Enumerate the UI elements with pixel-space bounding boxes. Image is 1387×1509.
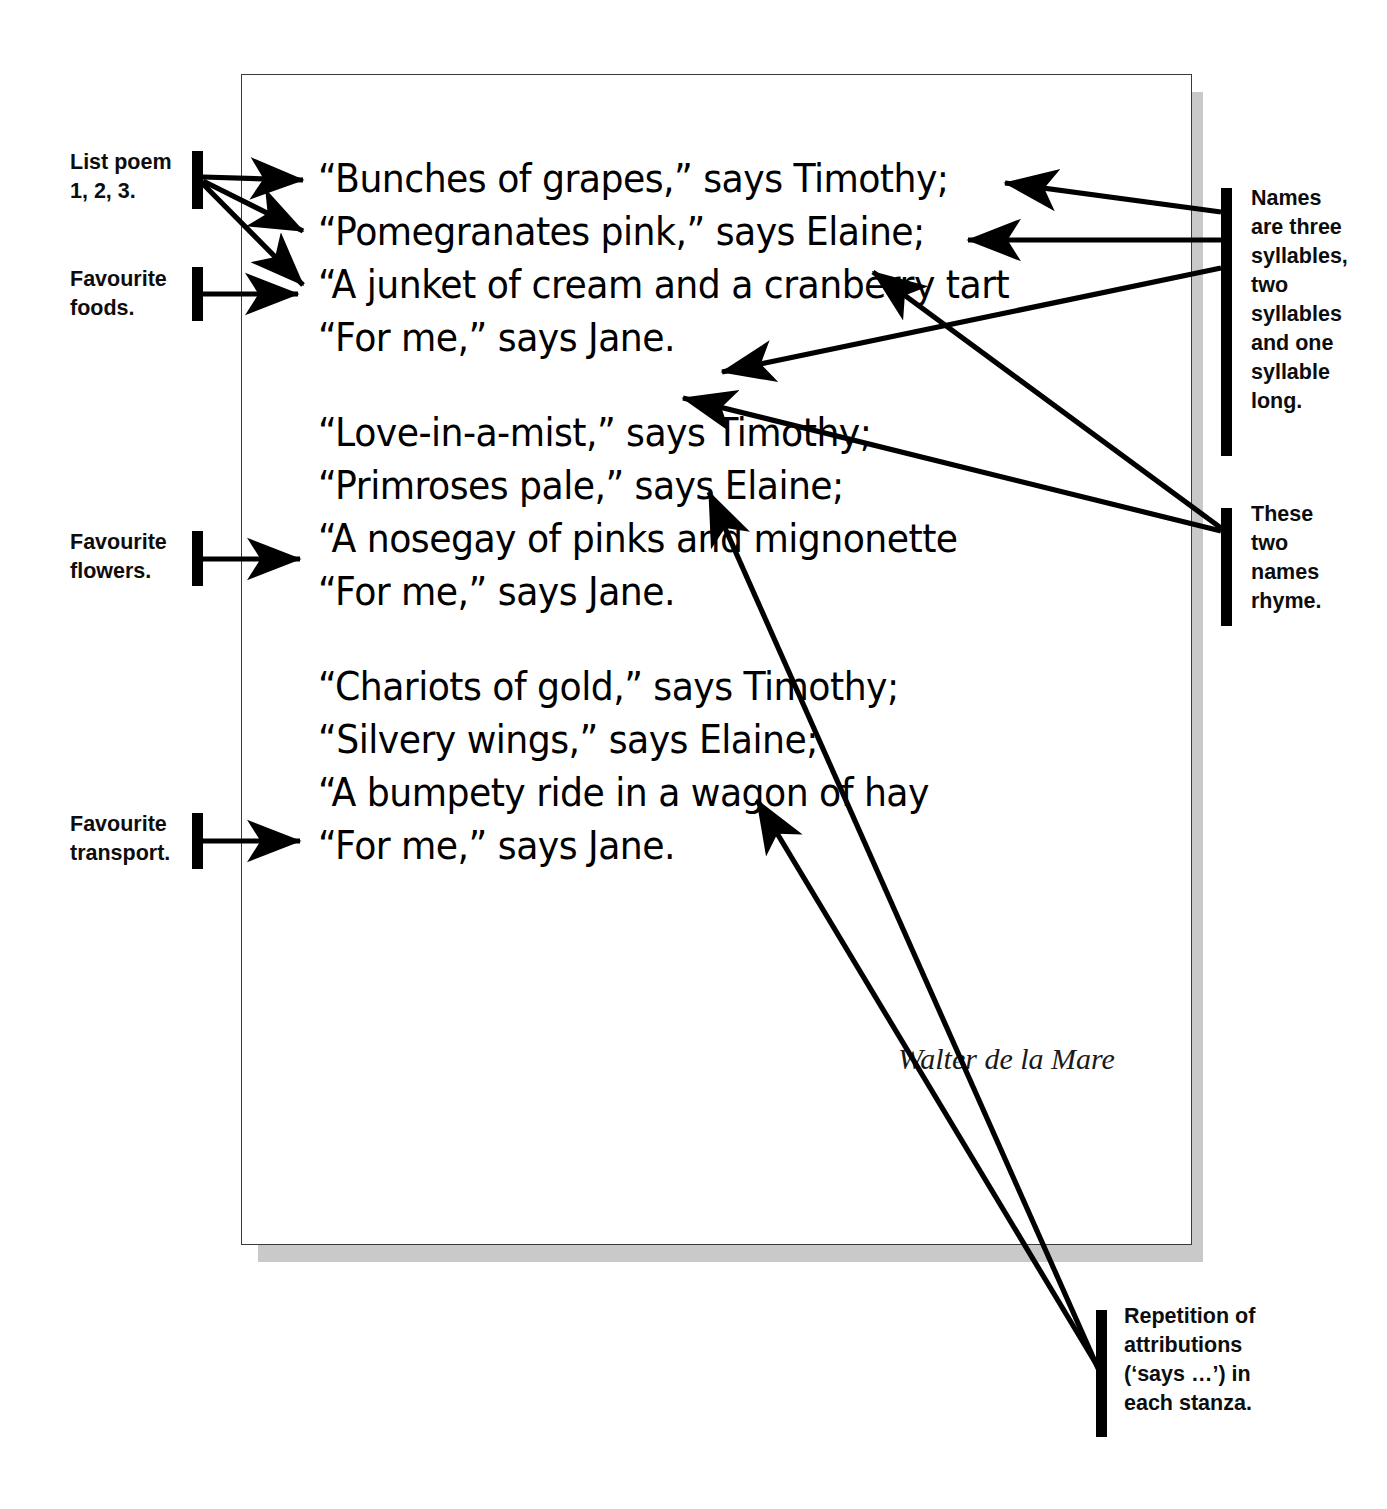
stanza-2: “Love-in-a-mist,” says Timothy; “Primros… [318, 406, 1138, 618]
poem-line: “Bunches of grapes,” says Timothy; [318, 152, 1081, 205]
poem-line: “For me,” says Jane. [318, 311, 1081, 364]
annotation-repetition: Repetition of attributions (‘says …’) in… [1124, 1302, 1304, 1418]
poem-line: “A bumpety ride in a wagon of hay [318, 766, 1081, 819]
annotation-favourite-transport: Favourite transport. [70, 810, 200, 868]
poem-line: “Chariots of gold,” says Timothy; [318, 660, 1081, 713]
poem-line: “Love-in-a-mist,” says Timothy; [318, 406, 1081, 459]
bracket-names-syllables [1221, 188, 1232, 456]
poem-line: “Pomegranates pink,” says Elaine; [318, 205, 1081, 258]
stanza-3: “Chariots of gold,” says Timothy; “Silve… [318, 660, 1138, 872]
stanza-1: “Bunches of grapes,” says Timothy; “Pome… [318, 152, 1138, 364]
annotation-favourite-foods: Favourite foods. [70, 265, 195, 323]
poem-line: “For me,” says Jane. [318, 565, 1081, 618]
annotated-poem-figure: “Bunches of grapes,” says Timothy; “Pome… [0, 0, 1387, 1509]
annotation-list-poem: List poem 1, 2, 3. [70, 148, 195, 206]
poem-line: “Silvery wings,” says Elaine; [318, 713, 1081, 766]
poem-body: “Bunches of grapes,” says Timothy; “Pome… [318, 152, 1138, 914]
bracket-repetition [1096, 1310, 1107, 1437]
poem-line: “For me,” says Jane. [318, 819, 1081, 872]
poem-line: “A nosegay of pinks and mignonette [318, 512, 1081, 565]
poem-line: “A junket of cream and a cranberry tart [318, 258, 1081, 311]
annotation-names-rhyme: These two names rhyme. [1251, 500, 1381, 616]
annotation-favourite-flowers: Favourite flowers. [70, 528, 195, 586]
poem-line: “Primroses pale,” says Elaine; [318, 459, 1081, 512]
poem-author-credit: Walter de la Mare [898, 1042, 1115, 1076]
bracket-names-rhyme [1221, 508, 1232, 626]
annotation-names-syllables: Names are three syllables, two syllables… [1251, 184, 1381, 416]
